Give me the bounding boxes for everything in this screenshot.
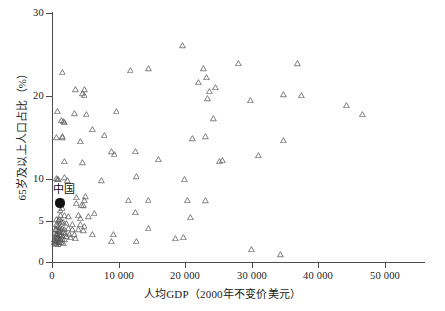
x-axis-tick-label: 40 000 (303, 270, 333, 281)
y-axis-tick-label: 0 (39, 257, 44, 268)
china-marker (55, 198, 64, 207)
x-axis-tick-label: 20 000 (170, 270, 200, 281)
x-axis-tick-label: 30 000 (237, 270, 267, 281)
annotation-china: 中国 (53, 183, 75, 195)
y-axis-tick-label: 10 (33, 174, 44, 185)
x-axis-tick (252, 263, 253, 268)
x-axis-title: 人均GDP（2000年不变价美元） (0, 288, 445, 301)
y-axis-tick-label: 20 (33, 91, 44, 102)
y-axis-tick-label: 5 (39, 216, 44, 227)
y-axis-title: 65岁及以上人口占比（%） (16, 34, 28, 234)
y-axis-line (52, 12, 53, 263)
x-axis-tick-label: 0 (49, 270, 54, 281)
y-axis-tick (46, 96, 52, 97)
y-axis-tick (46, 13, 52, 14)
x-axis-tick (185, 263, 186, 268)
scatter-chart: 05102030010 00020 00030 00040 00050 000 … (0, 0, 445, 311)
x-axis-tick-label: 10 000 (104, 270, 134, 281)
x-axis-tick (385, 263, 386, 268)
x-axis-tick (318, 263, 319, 268)
x-axis-tick-label: 50 000 (370, 270, 400, 281)
plot-area (52, 13, 405, 262)
x-axis-line (52, 262, 425, 263)
y-axis-tick (46, 179, 52, 180)
x-axis-tick (52, 263, 53, 268)
y-axis-tick-label: 30 (33, 8, 44, 19)
y-axis-tick (46, 221, 52, 222)
x-axis-tick (119, 263, 120, 268)
